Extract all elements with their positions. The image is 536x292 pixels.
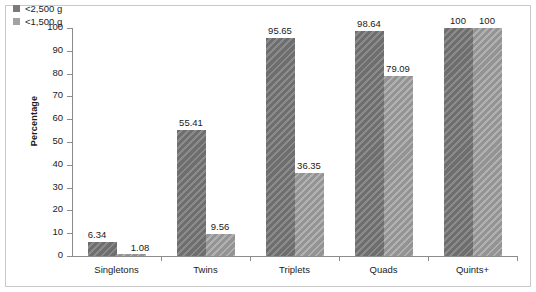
x-tick-mark [161, 256, 162, 261]
x-category-label-twins: Twins [161, 264, 250, 275]
y-tick-mark [67, 96, 72, 97]
y-tick-mark [67, 165, 72, 166]
x-tick-mark [250, 256, 251, 261]
y-tick: 80 [67, 74, 72, 75]
legend-swatch-series-2-icon [13, 18, 20, 25]
value-label-twins-series-2: 9.56 [198, 221, 243, 232]
bar-twins-series-2 [206, 234, 235, 256]
legend-item-series-2: <1,500 g [13, 15, 62, 28]
y-tick: 20 [67, 210, 72, 211]
y-tick-mark [67, 74, 72, 75]
y-tick-mark [67, 28, 72, 29]
y-tick: 50 [67, 142, 72, 143]
bar-triplets-series-1 [266, 38, 295, 256]
plot-area: 0102030405060708090100 6.341.0855.419.56… [72, 28, 517, 256]
y-tick-mark [67, 233, 72, 234]
y-tick: 60 [67, 119, 72, 120]
y-tick-mark [67, 142, 72, 143]
x-category-label-quintsplus: Quints+ [428, 264, 517, 275]
y-tick-label: 70 [52, 89, 63, 100]
y-tick: 0 [67, 256, 72, 257]
y-tick-label: 0 [58, 249, 63, 260]
y-tick-label: 40 [52, 158, 63, 169]
chart-figure: Percentage 0102030405060708090100 6.341.… [0, 0, 536, 292]
legend-swatch-series-1-icon [13, 5, 20, 12]
y-tick-label: 80 [52, 67, 63, 78]
chart-legend: <2,500 g <1,500 g [13, 2, 62, 28]
bar-twins-series-1 [177, 130, 206, 256]
x-tick-mark [428, 256, 429, 261]
bar-singletons-series-2 [117, 254, 146, 256]
y-axis-title: Percentage [29, 61, 39, 181]
y-tick-label: 90 [52, 44, 63, 55]
legend-item-series-1: <2,500 g [13, 2, 62, 15]
y-tick-label: 30 [52, 181, 63, 192]
value-label-quads-series-1: 98.64 [347, 18, 392, 29]
y-tick-mark [67, 119, 72, 120]
value-label-twins-series-1: 55.41 [169, 117, 214, 128]
y-tick-mark [67, 188, 72, 189]
legend-label-series-1: <2,500 g [25, 3, 62, 14]
y-tick: 90 [67, 51, 72, 52]
y-tick-mark [67, 210, 72, 211]
value-label-singletons-series-2: 1.08 [118, 242, 163, 253]
x-tick-mark [517, 256, 518, 261]
y-tick: 10 [67, 233, 72, 234]
bar-quintsplus-series-2 [473, 28, 502, 256]
y-tick-label: 50 [52, 135, 63, 146]
y-axis-line [72, 28, 73, 257]
y-tick-label: 10 [52, 226, 63, 237]
value-label-quintsplus-series-2: 100 [465, 15, 510, 26]
x-axis-line [72, 256, 517, 257]
value-label-triplets-series-1: 95.65 [258, 25, 303, 36]
value-label-triplets-series-2: 36.35 [287, 160, 332, 171]
y-tick: 30 [67, 188, 72, 189]
y-tick: 70 [67, 96, 72, 97]
y-tick: 100 [67, 28, 72, 29]
y-tick-label: 60 [52, 112, 63, 123]
x-category-label-triplets: Triplets [250, 264, 339, 275]
value-label-quads-series-2: 79.09 [376, 63, 421, 74]
bar-singletons-series-1 [88, 242, 117, 256]
y-tick-mark [67, 256, 72, 257]
bar-quintsplus-series-1 [444, 28, 473, 256]
x-category-label-quads: Quads [339, 264, 428, 275]
y-tick: 40 [67, 165, 72, 166]
value-label-singletons-series-1: 6.34 [75, 229, 120, 240]
bar-quads-series-2 [384, 76, 413, 256]
y-tick-label: 20 [52, 203, 63, 214]
x-tick-mark [339, 256, 340, 261]
x-category-label-singletons: Singletons [72, 264, 161, 275]
bar-triplets-series-2 [295, 173, 324, 256]
legend-label-series-2: <1,500 g [25, 16, 62, 27]
y-tick-mark [67, 51, 72, 52]
